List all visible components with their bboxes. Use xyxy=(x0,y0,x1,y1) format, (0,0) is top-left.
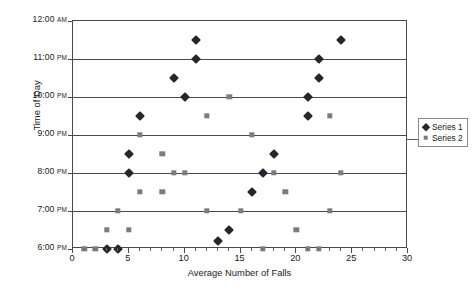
plot-area xyxy=(72,20,407,248)
data-point xyxy=(336,35,346,45)
x-tick-minor xyxy=(206,248,207,251)
x-tick-minor xyxy=(340,248,341,251)
data-point xyxy=(191,35,201,45)
x-tick-minor xyxy=(329,248,330,251)
data-point xyxy=(204,113,209,118)
data-point xyxy=(238,208,243,213)
x-tick-minor xyxy=(139,248,140,251)
data-point xyxy=(269,149,279,159)
data-point xyxy=(137,189,142,194)
data-point xyxy=(160,151,165,156)
data-point xyxy=(137,132,142,137)
x-tick-minor xyxy=(161,248,162,251)
y-tick xyxy=(68,135,73,136)
legend-connector xyxy=(407,139,418,140)
data-point xyxy=(303,92,313,102)
x-tick-label: 20 xyxy=(290,253,300,263)
data-point xyxy=(249,132,254,137)
y-tick xyxy=(68,211,73,212)
y-tick-label: 8:00 PM xyxy=(37,167,67,176)
x-axis-title: Average Number of Falls xyxy=(72,267,407,278)
data-point xyxy=(171,170,176,175)
legend-item-series-1[interactable]: Series 1 xyxy=(422,121,463,132)
data-point xyxy=(227,94,232,99)
y-tick-label: 6:00 PM xyxy=(37,243,67,252)
data-point xyxy=(294,227,299,232)
data-point xyxy=(160,189,165,194)
gridline-11-00 xyxy=(73,59,406,60)
data-point xyxy=(303,111,313,121)
legend-label-series-1: Series 1 xyxy=(432,122,463,132)
data-point xyxy=(327,208,332,213)
x-tick-minor xyxy=(307,248,308,251)
x-tick-minor xyxy=(117,248,118,251)
x-tick-minor xyxy=(217,248,218,251)
data-point xyxy=(271,170,276,175)
scatter-chart: Time of Day 12:00 AM11:00 PM10:00 PM9:00… xyxy=(0,0,474,290)
y-tick xyxy=(68,59,73,60)
data-point xyxy=(314,73,324,83)
data-point xyxy=(124,168,134,178)
x-tick-minor xyxy=(150,248,151,251)
x-tick-label: 30 xyxy=(402,253,412,263)
data-point xyxy=(247,187,257,197)
chart-legend: Series 1 Series 2 xyxy=(418,118,468,147)
y-axis-title: Time of Day xyxy=(31,46,42,166)
square-marker-icon xyxy=(422,133,429,142)
data-point xyxy=(327,113,332,118)
data-point xyxy=(135,111,145,121)
y-tick-label: 9:00 PM xyxy=(37,129,67,138)
x-tick-label: 25 xyxy=(346,253,356,263)
data-point xyxy=(224,225,234,235)
data-point xyxy=(282,189,287,194)
data-point xyxy=(204,208,209,213)
x-tick-label: 0 xyxy=(69,253,74,263)
x-tick-minor xyxy=(94,248,95,251)
y-tick-label: 10:00 PM xyxy=(33,91,68,100)
data-point xyxy=(182,170,187,175)
x-tick-label: 5 xyxy=(125,253,130,263)
data-point xyxy=(124,149,134,159)
legend-item-series-2[interactable]: Series 2 xyxy=(422,132,463,143)
x-tick-minor xyxy=(262,248,263,251)
data-point xyxy=(191,54,201,64)
y-tick-label: 7:00 PM xyxy=(37,205,67,214)
y-tick xyxy=(68,173,73,174)
x-tick-minor xyxy=(385,248,386,251)
data-point xyxy=(258,168,268,178)
data-point xyxy=(314,54,324,64)
x-tick-minor xyxy=(374,248,375,251)
y-tick xyxy=(68,97,73,98)
data-point xyxy=(338,170,343,175)
data-point xyxy=(180,92,190,102)
data-point xyxy=(169,73,179,83)
gridline-8-00 xyxy=(73,173,406,174)
data-point xyxy=(113,244,123,254)
gridline-9-00 xyxy=(73,135,406,136)
x-tick-minor xyxy=(173,248,174,251)
x-tick-minor xyxy=(273,248,274,251)
x-tick-minor xyxy=(228,248,229,251)
x-tick-minor xyxy=(195,248,196,251)
x-tick-minor xyxy=(251,248,252,251)
x-tick-minor xyxy=(83,248,84,251)
x-tick-minor xyxy=(106,248,107,251)
x-tick-label: 15 xyxy=(234,253,244,263)
y-tick xyxy=(68,21,73,22)
legend-label-series-2: Series 2 xyxy=(432,133,463,143)
x-tick-minor xyxy=(284,248,285,251)
data-point xyxy=(213,236,223,246)
data-point xyxy=(126,227,131,232)
gridline-10-00 xyxy=(73,97,406,98)
y-tick-label: 11:00 PM xyxy=(33,53,67,62)
x-tick-minor xyxy=(396,248,397,251)
x-tick-minor xyxy=(318,248,319,251)
y-tick-label: 12:00 AM xyxy=(33,15,68,24)
data-point xyxy=(102,244,112,254)
data-point xyxy=(115,208,120,213)
data-point xyxy=(104,227,109,232)
x-tick-label: 10 xyxy=(179,253,189,263)
x-tick-minor xyxy=(362,248,363,251)
diamond-marker-icon xyxy=(422,122,429,131)
